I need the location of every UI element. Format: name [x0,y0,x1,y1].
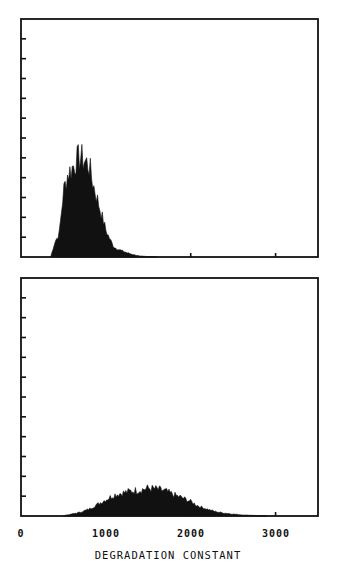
x-tick-label-0: 0 [17,528,24,539]
x-tick-label-3000: 3000 [262,528,290,539]
histogram-area [63,485,267,516]
top-histogram-panel [21,19,318,257]
histogram-area [51,144,157,257]
histogram-figure [0,0,337,578]
x-tick-label-2000: 2000 [177,528,205,539]
bottom-histogram-panel [21,278,318,516]
plot-frame [21,278,318,516]
x-axis-title: DEGRADATION CONSTANT [95,549,241,561]
x-tick-label-1000: 1000 [92,528,120,539]
